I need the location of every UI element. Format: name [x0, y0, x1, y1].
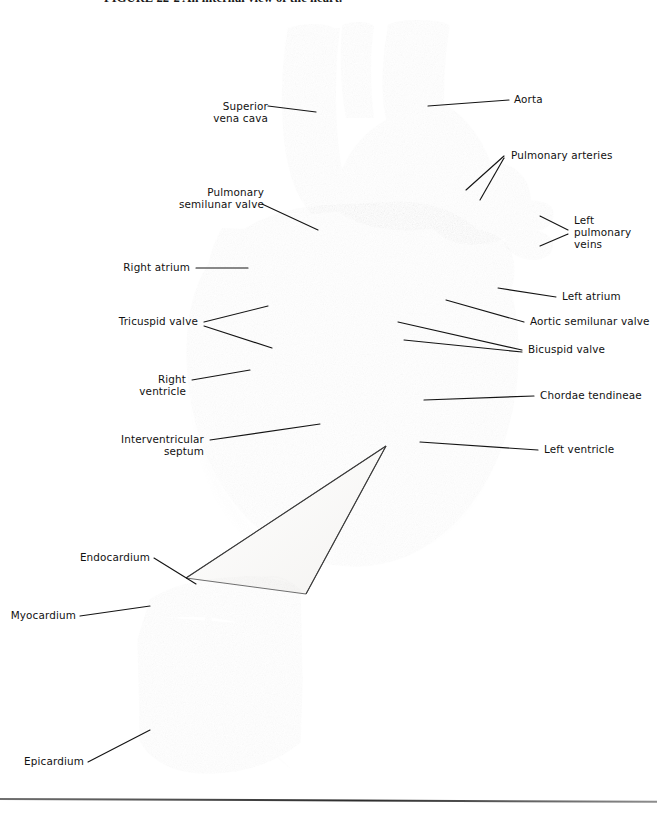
label-interventricular-septum: Interventricular septum: [82, 434, 204, 458]
label-aortic-semilunar-valve: Aortic semilunar valve: [530, 316, 657, 328]
heart-wall-inset: [138, 576, 302, 772]
label-bicuspid-valve: Bicuspid valve: [528, 344, 638, 356]
label-right-atrium: Right atrium: [106, 262, 190, 274]
figure-page: FIGURE 22-2 An internal view of the hear…: [0, 0, 657, 820]
label-tricuspid-valve: Tricuspid valve: [104, 316, 198, 328]
label-chordae-tendineae: Chordae tendineae: [540, 390, 657, 402]
label-aorta: Aorta: [514, 94, 634, 106]
label-left-ventricle: Left ventricle: [544, 444, 644, 456]
label-left-pulmonary-veins: Left pulmonary veins: [574, 215, 654, 250]
label-pulmonary-arteries: Pulmonary arteries: [511, 150, 651, 162]
label-myocardium: Myocardium: [4, 610, 76, 622]
label-left-atrium: Left atrium: [562, 291, 652, 303]
label-superior-vena-cava: Superior vena cava: [148, 101, 268, 125]
label-right-ventricle: Right ventricle: [108, 374, 186, 398]
heart-body: [187, 202, 518, 566]
label-pulmonary-semilunar-valve: Pulmonary semilunar valve: [112, 187, 264, 211]
heart-illustration: [0, 0, 657, 820]
label-endocardium: Endocardium: [62, 552, 150, 564]
label-epicardium: Epicardium: [18, 756, 84, 768]
